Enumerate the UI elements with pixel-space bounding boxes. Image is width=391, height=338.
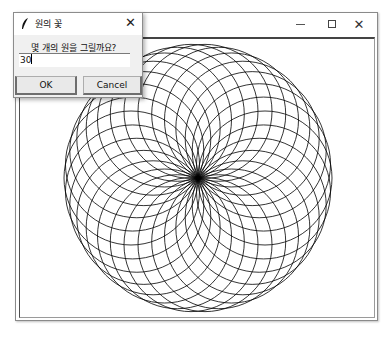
circle-count-input[interactable]: 30	[19, 53, 130, 67]
text-caret	[31, 54, 32, 64]
cancel-button[interactable]: Cancel	[83, 76, 142, 95]
input-value: 30	[20, 55, 31, 65]
dialog-title: 원의 꽃	[35, 17, 62, 30]
feather-icon	[21, 18, 29, 30]
input-dialog: 원의 꽃 ✕ 몇 개의 원을 그릴까요? 30 OK Cancel	[13, 12, 143, 98]
dialog-close-icon[interactable]: ✕	[125, 15, 136, 31]
dialog-titlebar[interactable]: 원의 꽃 ✕	[14, 13, 142, 35]
ok-button[interactable]: OK	[15, 76, 77, 95]
dialog-body: 몇 개의 원을 그릴까요? 30 OK Cancel	[14, 35, 142, 97]
